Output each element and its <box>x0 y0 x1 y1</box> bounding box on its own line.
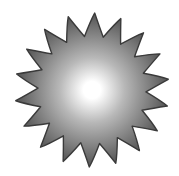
sun-icon <box>0 0 179 176</box>
sun-image-canvas <box>0 0 179 176</box>
sun-rays-shape <box>16 13 169 167</box>
